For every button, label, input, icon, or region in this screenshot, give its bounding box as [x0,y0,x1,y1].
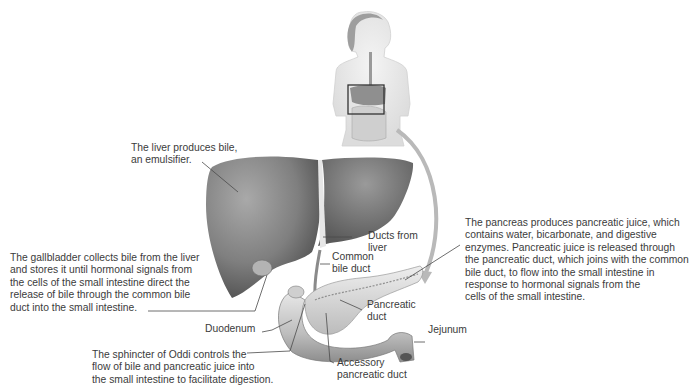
duodenum-label: Duodenum [205,323,255,335]
torso-figure [333,11,410,146]
jejunum-label: Jejunum [428,324,467,336]
sphincter-of-oddi-label: The sphincter of Oddi controls the flow … [92,349,273,386]
anatomy-illustration [0,0,697,391]
common-bile-duct-label: Common bile duct [332,251,374,276]
accessory-pancreatic-duct-label: Accessory pancreatic duct [337,357,407,382]
pancreatic-duct-label: Pancreatic duct [367,299,416,324]
pancreas-label: The pancreas produces pancreatic juice, … [465,217,689,304]
gallbladder-label: The gallbladder collects bile from the l… [10,252,199,314]
liver-label: The liver produces bile, an emulsifier. [131,142,237,167]
ducts-from-liver-label: Ducts from liver [368,230,418,255]
diagram-canvas: The liver produces bile, an emulsifier. … [0,0,697,391]
